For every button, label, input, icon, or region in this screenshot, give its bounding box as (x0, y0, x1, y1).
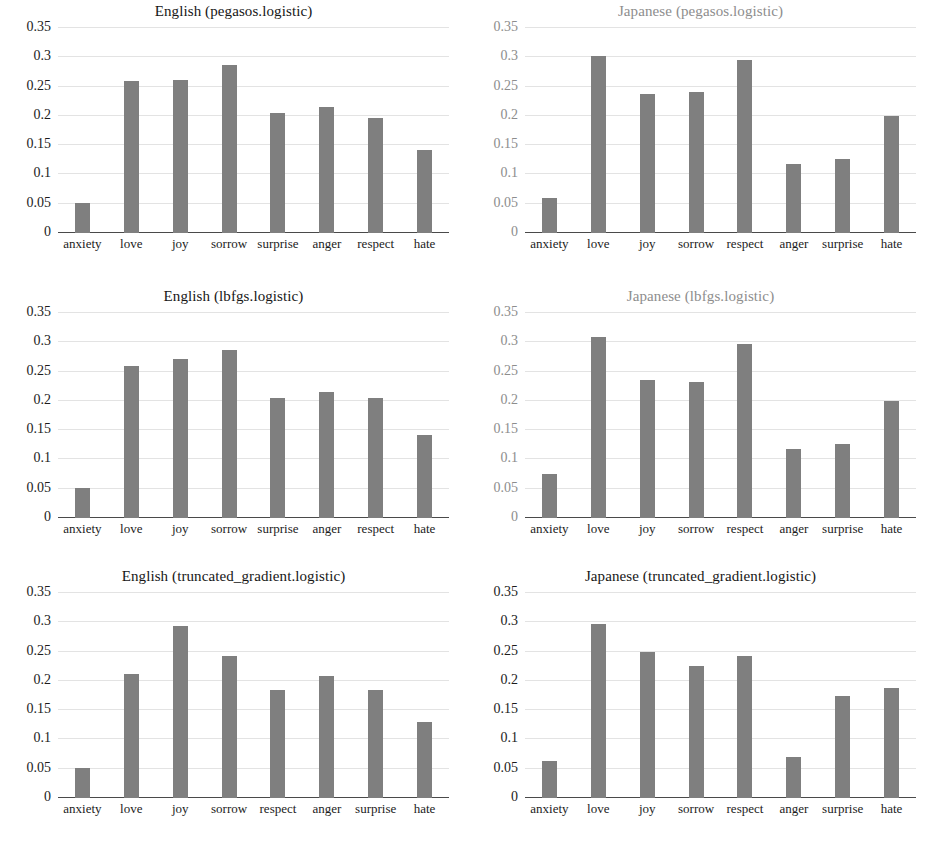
plot-area: 00.050.10.150.20.250.30.35 (58, 313, 449, 518)
bar (222, 350, 237, 518)
chart-title: English (lbfgs.logistic) (0, 285, 467, 305)
ytick-label: 0.2 (34, 673, 52, 687)
bar-slot (623, 593, 672, 798)
x-axis-labels: anxietylovejoysorrowrespectangersurprise… (58, 801, 449, 817)
bar-slot (867, 28, 916, 233)
bar-slot (156, 593, 205, 798)
xtick-label: anxiety (58, 521, 107, 537)
ytick-label: 0.05 (494, 196, 519, 210)
bar-slot (769, 593, 818, 798)
xtick-label: anger (769, 521, 818, 537)
ytick-label: 0.25 (27, 79, 52, 93)
xtick-label: surprise (818, 801, 867, 817)
chart-title: English (truncated_gradient.logistic) (0, 565, 467, 585)
chart-panel: English (lbfgs.logistic)00.050.10.150.20… (0, 285, 467, 565)
xtick-label: joy (156, 236, 205, 252)
x-axis-labels: anxietylovejoysorrowrespectangersurprise… (525, 236, 916, 252)
bar (689, 666, 704, 798)
bar (417, 722, 432, 798)
chart-panel: English (truncated_gradient.logistic)00.… (0, 565, 467, 860)
ytick-label: 0.1 (501, 166, 519, 180)
bar (222, 65, 237, 233)
bar (124, 674, 139, 798)
bar-slot (574, 313, 623, 518)
ytick-label: 0.2 (501, 393, 519, 407)
bar-slot (302, 313, 351, 518)
xtick-label: sorrow (205, 236, 254, 252)
ytick-label: 0.35 (27, 305, 52, 319)
xtick-label: anxiety (58, 236, 107, 252)
bar-slot (721, 593, 770, 798)
bar (270, 398, 285, 518)
ytick-label: 0.25 (494, 364, 519, 378)
xtick-label: sorrow (672, 236, 721, 252)
bar-slot (351, 28, 400, 233)
ytick-label: 0.15 (27, 422, 52, 436)
ytick-label: 0.35 (27, 20, 52, 34)
ytick-label: 0.05 (494, 761, 519, 775)
chart-title: Japanese (truncated_gradient.logistic) (467, 565, 934, 585)
xtick-label: respect (351, 236, 400, 252)
chart-title: English (pegasos.logistic) (0, 0, 467, 20)
bar (417, 150, 432, 233)
xtick-label: hate (400, 236, 449, 252)
bar (689, 382, 704, 518)
chart-panel: Japanese (pegasos.logistic)00.050.10.150… (467, 0, 934, 285)
ytick-label: 0.35 (494, 305, 519, 319)
xtick-label: sorrow (205, 521, 254, 537)
bar-slot (574, 28, 623, 233)
xtick-label: hate (400, 521, 449, 537)
ytick-label: 0 (511, 225, 518, 239)
xtick-label: sorrow (672, 521, 721, 537)
bar (835, 696, 850, 799)
bar (75, 768, 90, 798)
bar (542, 761, 557, 798)
xtick-label: respect (721, 236, 770, 252)
bar (319, 107, 334, 234)
xtick-label: anger (302, 521, 351, 537)
chart-panel: English (pegasos.logistic)00.050.10.150.… (0, 0, 467, 285)
bars (58, 593, 449, 798)
ytick-label: 0.15 (494, 137, 519, 151)
xtick-label: love (574, 236, 623, 252)
bar (368, 118, 383, 233)
bar-slot (672, 28, 721, 233)
xtick-label: sorrow (672, 801, 721, 817)
bar-slot (254, 313, 303, 518)
bar (75, 203, 90, 233)
bar (591, 337, 606, 518)
xtick-label: joy (156, 801, 205, 817)
bar-slot (867, 313, 916, 518)
bar-slot (58, 313, 107, 518)
bar-slot (721, 28, 770, 233)
xtick-label: surprise (351, 801, 400, 817)
xtick-label: anxiety (525, 521, 574, 537)
bar-slot (254, 593, 303, 798)
bar (173, 80, 188, 233)
xtick-label: love (107, 801, 156, 817)
ytick-label: 0.35 (27, 585, 52, 599)
ytick-label: 0.1 (34, 731, 52, 745)
xtick-label: anger (302, 801, 351, 817)
bar-slot (156, 313, 205, 518)
bar-slot (156, 28, 205, 233)
bars (58, 313, 449, 518)
x-axis-labels: anxietylovejoysorrowsurpriseangerrespect… (58, 521, 449, 537)
bar-slot (254, 28, 303, 233)
plot-area: 00.050.10.150.20.250.30.35 (525, 313, 916, 518)
xtick-label: surprise (254, 236, 303, 252)
bar-slot (721, 313, 770, 518)
ytick-label: 0.05 (27, 196, 52, 210)
bar (884, 688, 899, 798)
chart-title: Japanese (pegasos.logistic) (467, 0, 934, 20)
xtick-label: respect (254, 801, 303, 817)
bars (525, 593, 916, 798)
bar-slot (58, 28, 107, 233)
bar-slot (205, 313, 254, 518)
bar-slot (672, 313, 721, 518)
ytick-label: 0.3 (34, 614, 52, 628)
bar (270, 690, 285, 798)
xtick-label: hate (867, 236, 916, 252)
bar (786, 757, 801, 798)
xtick-label: surprise (818, 236, 867, 252)
